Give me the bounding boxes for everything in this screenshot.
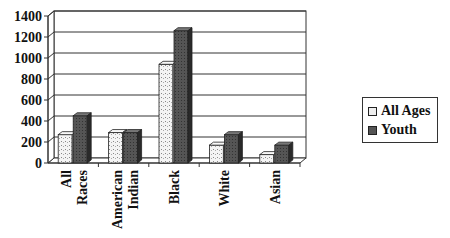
y-tick-label: 800: [21, 72, 42, 87]
y-tick-label: 1000: [14, 51, 42, 66]
bar-youth: [174, 28, 192, 163]
x-category-label: AllRaces: [59, 169, 90, 205]
legend-swatch-youth: [368, 126, 377, 135]
y-tick-label: 400: [21, 114, 42, 129]
plot-side-wall: [48, 11, 54, 163]
x-category-label: Asian: [268, 170, 283, 204]
legend-item-all-ages: All Ages: [368, 103, 430, 119]
legend-swatch-all-ages: [368, 107, 377, 116]
legend-label-youth: Youth: [381, 122, 417, 138]
y-tick-label: 600: [21, 93, 42, 108]
legend-item-youth: Youth: [368, 122, 417, 138]
bar-youth: [224, 132, 242, 163]
chart-legend: All Ages Youth: [362, 97, 438, 143]
y-tick-label: 1200: [14, 30, 42, 45]
bar-youth: [275, 142, 293, 163]
x-category-label: Black: [167, 170, 182, 204]
y-tick-label: 0: [35, 156, 42, 171]
y-tick-label: 1400: [14, 9, 42, 24]
bar-youth: [73, 113, 91, 163]
y-tick-label: 200: [21, 135, 42, 150]
legend-label-all-ages: All Ages: [381, 103, 430, 119]
x-category-label: White: [217, 170, 232, 207]
x-category-label: AmericanIndian: [110, 170, 141, 229]
bar-youth: [124, 130, 142, 163]
